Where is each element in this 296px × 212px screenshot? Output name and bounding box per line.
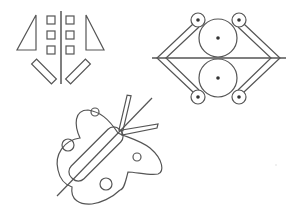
symmetric-shapes-figure [17, 11, 104, 84]
diagram-canvas [0, 0, 296, 212]
gear-linkage-figure [152, 13, 286, 104]
butterfly-figure [57, 95, 162, 204]
